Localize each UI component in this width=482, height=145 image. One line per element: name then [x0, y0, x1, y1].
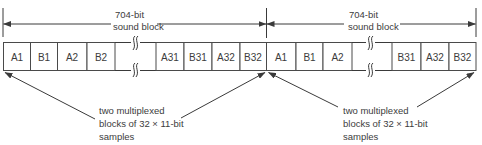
block-2-dimension-arrow: 704-bit sound block [267, 9, 476, 32]
cell-label: B31 [398, 52, 416, 63]
cell-label: A31 [161, 52, 179, 63]
annotation-text-line: samples [99, 131, 135, 142]
annotation-text-line: two multiplexed [99, 105, 164, 116]
cell: B1 [31, 43, 58, 71]
cell: A2 [58, 43, 88, 71]
annotation-2: two multiplexed blocks of 32 × 11-bit sa… [269, 73, 475, 143]
cell-label: B1 [303, 52, 316, 63]
cell-label: B32 [454, 52, 472, 63]
pointer-arrow-icon [417, 73, 474, 108]
cell: A32 [421, 43, 449, 71]
cell: B32 [449, 43, 476, 71]
annotation-text-line: two multiplexed [343, 105, 408, 116]
annotation-text-line: blocks of 32 × 11-bit [99, 118, 184, 129]
cell-label: B32 [244, 52, 262, 63]
block-1-size-sublabel: sound block [113, 21, 164, 32]
cell: B31 [392, 43, 421, 71]
omitted-cells-gap [115, 36, 156, 77]
cell: A2 [323, 43, 352, 71]
cell: B1 [296, 43, 323, 71]
annotation-1: two multiplexed blocks of 32 × 11-bit sa… [5, 73, 265, 143]
omitted-cells-gap [352, 36, 392, 77]
dimension-ticks [3, 8, 476, 38]
cell: A1 [4, 43, 31, 71]
cell: B32 [240, 43, 267, 71]
cell-label: A32 [426, 52, 444, 63]
pointer-arrow-icon [181, 73, 265, 119]
break-icon [133, 36, 138, 77]
cell: A31 [156, 43, 184, 71]
cell-label: B2 [95, 52, 108, 63]
cell: A32 [212, 43, 240, 71]
cell-label: A2 [331, 52, 344, 63]
sound-block-2: A1 B1 A2 B31 A32 B32 [267, 36, 477, 77]
block-1-dimension-arrow: 704-bit sound block [4, 9, 267, 32]
annotation-text-line: samples [343, 131, 379, 142]
cell-label: B1 [38, 52, 51, 63]
block-2-size-sublabel: sound block [348, 21, 399, 32]
cell: B2 [87, 43, 115, 71]
break-icon [368, 36, 373, 77]
cell: B31 [184, 43, 212, 71]
cell: A1 [267, 43, 297, 71]
block-1-size-label: 704-bit [115, 9, 144, 20]
cell-label: A2 [66, 52, 79, 63]
annotation-text-line: blocks of 32 × 11-bit [343, 118, 428, 129]
sound-block-diagram: 704-bit sound block 704-bit sound block … [0, 0, 482, 145]
cell-label: A1 [275, 52, 288, 63]
cell-label: A32 [217, 52, 235, 63]
block-2-size-label: 704-bit [349, 9, 378, 20]
pointer-arrow-icon [5, 73, 95, 120]
cell-label: A1 [11, 52, 24, 63]
sound-block-1: A1 B1 A2 B2 A31 B31 A32 B32 [4, 36, 267, 77]
pointer-arrow-icon [269, 73, 339, 108]
cell-label: B31 [189, 52, 207, 63]
